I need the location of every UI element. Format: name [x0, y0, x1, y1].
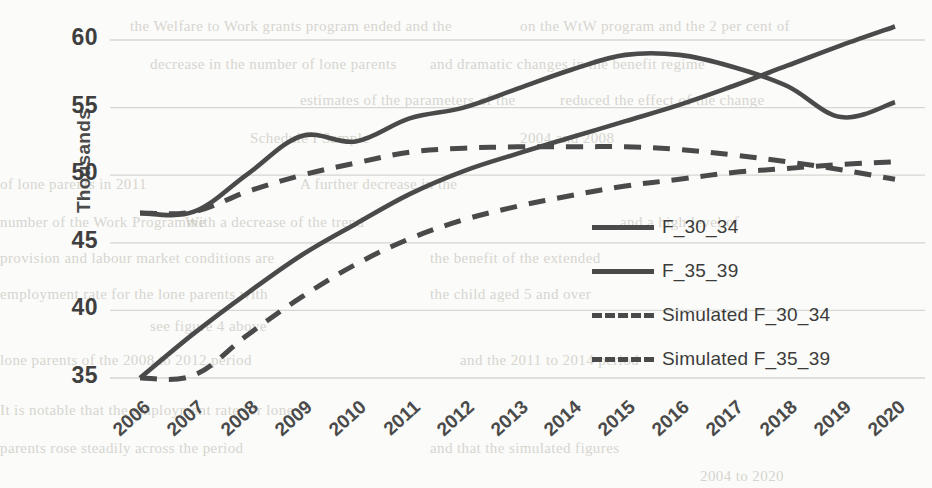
series-line-simulated-f-30-34	[140, 147, 895, 214]
legend-item[interactable]: F_35_39	[592, 249, 830, 293]
legend-item-label: Simulated F_35_39	[662, 348, 830, 370]
chart-legend: F_30_34F_35_39Simulated F_30_34Simulated…	[592, 205, 830, 381]
legend-item[interactable]: Simulated F_30_34	[592, 293, 830, 337]
legend-line-swatch-icon	[592, 308, 654, 322]
legend-item-label: F_30_34	[662, 216, 738, 238]
chart-container: the Welfare to Work grants program ended…	[0, 0, 932, 488]
legend-item[interactable]: Simulated F_35_39	[592, 337, 830, 381]
legend-line-swatch-icon	[592, 220, 654, 234]
legend-item[interactable]: F_30_34	[592, 205, 830, 249]
legend-item-label: Simulated F_30_34	[662, 304, 830, 326]
legend-line-swatch-icon	[592, 352, 654, 366]
legend-line-swatch-icon	[592, 264, 654, 278]
legend-item-label: F_35_39	[662, 260, 738, 282]
